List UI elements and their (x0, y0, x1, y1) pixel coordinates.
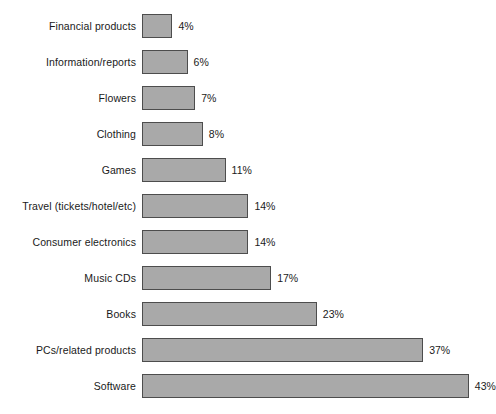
bar-chart: Financial products4%Information/reports6… (0, 0, 496, 414)
bar-row: Information/reports6% (0, 50, 496, 74)
category-label: Games (0, 158, 136, 182)
plot-area: Financial products4%Information/reports6… (0, 0, 496, 414)
bar (142, 194, 248, 218)
bar-row: Financial products4% (0, 14, 496, 38)
bar (142, 302, 317, 326)
bar (142, 266, 271, 290)
bar (142, 50, 188, 74)
bar-row: Software43% (0, 374, 496, 398)
bar-group: 4% (142, 14, 194, 38)
bar (142, 158, 226, 182)
value-label: 23% (323, 302, 344, 326)
bar-group: 23% (142, 302, 344, 326)
bar-row: Games11% (0, 158, 496, 182)
bar-row: Travel (tickets/hotel/etc)14% (0, 194, 496, 218)
value-label: 8% (209, 122, 224, 146)
bar-row: Music CDs17% (0, 266, 496, 290)
category-label: Flowers (0, 86, 136, 110)
bar-row: PCs/related products37% (0, 338, 496, 362)
bar (142, 122, 203, 146)
category-label: Travel (tickets/hotel/etc) (0, 194, 136, 218)
value-label: 37% (429, 338, 450, 362)
bar (142, 374, 469, 398)
value-label: 7% (201, 86, 216, 110)
value-label: 43% (475, 374, 496, 398)
value-label: 14% (254, 230, 275, 254)
value-label: 14% (254, 194, 275, 218)
category-label: Software (0, 374, 136, 398)
bar-group: 8% (142, 122, 224, 146)
bar (142, 86, 195, 110)
bar-group: 14% (142, 230, 275, 254)
category-label: PCs/related products (0, 338, 136, 362)
category-label: Information/reports (0, 50, 136, 74)
value-label: 17% (277, 266, 298, 290)
bar-group: 17% (142, 266, 298, 290)
bar (142, 230, 248, 254)
category-label: Consumer electronics (0, 230, 136, 254)
category-label: Financial products (0, 14, 136, 38)
bar-group: 6% (142, 50, 209, 74)
bar-row: Flowers7% (0, 86, 496, 110)
bar (142, 14, 172, 38)
bar-group: 7% (142, 86, 216, 110)
bar-group: 37% (142, 338, 450, 362)
category-label: Books (0, 302, 136, 326)
value-label: 11% (232, 158, 252, 182)
bar-group: 11% (142, 158, 252, 182)
bar-row: Consumer electronics14% (0, 230, 496, 254)
category-label: Music CDs (0, 266, 136, 290)
value-label: 4% (178, 14, 193, 38)
bar-group: 14% (142, 194, 275, 218)
category-label: Clothing (0, 122, 136, 146)
bar-group: 43% (142, 374, 496, 398)
bar-row: Clothing8% (0, 122, 496, 146)
value-label: 6% (194, 50, 209, 74)
bar (142, 338, 423, 362)
bar-row: Books23% (0, 302, 496, 326)
